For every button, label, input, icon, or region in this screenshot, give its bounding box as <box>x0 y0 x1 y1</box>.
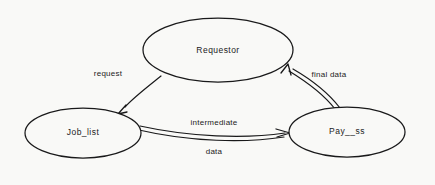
edge-final-data: final data <box>281 64 347 109</box>
diagram-root: request intermediate data final data Req… <box>0 0 435 185</box>
node-payss-label: Pay__ss <box>329 126 365 136</box>
edge-request-label: request <box>94 69 123 78</box>
node-payss[interactable]: Pay__ss <box>289 107 405 157</box>
edge-intermediate-data: intermediate data <box>139 118 290 156</box>
edge-request-arrowhead <box>118 105 127 114</box>
node-job-list[interactable]: Job_list <box>25 108 141 158</box>
edge-final-data-label: final data <box>312 70 347 79</box>
edge-request-line <box>125 76 161 107</box>
edge-intermediate-label-bottom: data <box>206 147 223 156</box>
node-job-list-label: Job_list <box>67 127 100 137</box>
flow-diagram-canvas: request intermediate data final data Req… <box>0 0 435 185</box>
edge-request: request <box>94 69 161 114</box>
node-requestor-label: Requestor <box>196 45 239 55</box>
node-requestor[interactable]: Requestor <box>143 18 293 82</box>
edge-intermediate-label-top: intermediate <box>190 118 237 127</box>
